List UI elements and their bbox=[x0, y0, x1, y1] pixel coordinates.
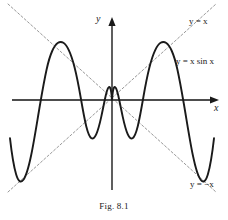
y-axis-label: y bbox=[96, 14, 100, 24]
figure-caption: Fig. 8.1 bbox=[0, 201, 228, 211]
x-axis bbox=[12, 96, 219, 103]
figure-container: y x y = x y = x sin x y = −x Fig. 8.1 bbox=[0, 0, 228, 220]
annotation-lower-envelope: y = −x bbox=[190, 180, 214, 189]
y-axis bbox=[108, 17, 115, 190]
annotation-curve-equation: y = x sin x bbox=[176, 57, 214, 66]
x-axis-label: x bbox=[214, 103, 218, 113]
annotation-upper-envelope: y = x bbox=[189, 17, 208, 26]
